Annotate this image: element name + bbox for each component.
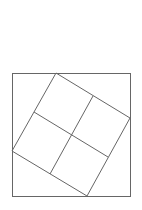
square-in-square-diagram <box>0 0 142 210</box>
grid-line-midline-a <box>34 112 108 157</box>
diagram-canvas <box>0 0 142 210</box>
grid-line-midline-b <box>50 96 93 174</box>
